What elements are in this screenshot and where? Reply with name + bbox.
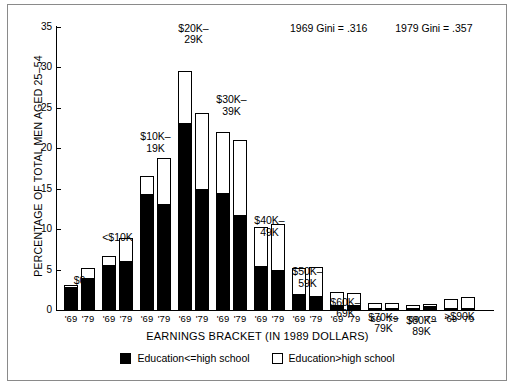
bar-1979: [195, 113, 209, 311]
bar-segment-education-lte-highschool: [103, 265, 115, 310]
bracket-label: $40K–49K: [230, 215, 310, 238]
bar-segment-education-lte-highschool: [424, 306, 436, 310]
bar-segment-education-lte-highschool: [255, 266, 267, 310]
y-axis-tick-label: 20: [22, 143, 52, 153]
x-axis-tick-label: '79: [154, 313, 174, 324]
legend-label-education-gt-highschool: Education>high school: [289, 352, 395, 364]
bar-segment-education-lte-highschool: [196, 189, 208, 310]
bracket-label: $50K–59K: [268, 266, 348, 289]
y-axis-tick-label: 15: [22, 184, 52, 194]
bar-1969: [254, 227, 268, 311]
x-axis-tick-label: '79: [458, 313, 478, 324]
bar-1979: [385, 303, 399, 311]
bar-1979: [157, 158, 171, 311]
x-axis-tick-label: '79: [420, 313, 440, 324]
bar-1969: [178, 71, 192, 311]
legend-label-education-lte-highschool: Education<=high school: [137, 352, 249, 364]
bar-segment-education-lte-highschool: [293, 294, 305, 310]
bar-segment-education-lte-highschool: [369, 308, 381, 310]
bar-1979: [423, 304, 437, 311]
bar-1969: [216, 132, 230, 312]
bar-1979: [119, 238, 133, 311]
bracket-label: $30K–39K: [192, 94, 272, 117]
bar-segment-education-lte-highschool: [158, 204, 170, 310]
bar-segment-education-lte-highschool: [141, 194, 153, 310]
x-axis-tick-label: '79: [116, 313, 136, 324]
x-axis-tick-label: '79: [382, 313, 402, 324]
bar-1969: [64, 285, 78, 311]
bar-segment-education-lte-highschool: [179, 123, 191, 310]
x-axis-tick-label: '79: [192, 313, 212, 324]
bar-segment-education-lte-highschool: [65, 287, 77, 310]
y-axis-tick-label: 5: [22, 265, 52, 275]
bar-1979: [461, 297, 475, 311]
bar-1969: [406, 305, 420, 311]
x-axis-tick-label: '79: [78, 313, 98, 324]
chart-figure: 1969 Gini = .316 1979 Gini = .357 PERCEN…: [0, 0, 515, 391]
bar-segment-education-lte-highschool: [407, 308, 419, 310]
legend-item-education-gt-highschool: Education>high school: [272, 352, 395, 364]
bar-1969: [444, 299, 458, 311]
plot-area: $0<$10K$10K–19K$20K–29K$30K–39K$40K–49K$…: [56, 27, 494, 311]
chart-legend: Education<=high school Education>high sc…: [0, 352, 515, 364]
x-axis-tick-label: '79: [268, 313, 288, 324]
bar-1969: [368, 303, 382, 311]
bar-segment-education-lte-highschool: [120, 261, 132, 310]
x-axis-title: EARNINGS BRACKET (IN 1989 DOLLARS): [0, 330, 515, 342]
legend-swatch-hollow: [272, 353, 283, 364]
legend-swatch-filled: [120, 353, 131, 364]
x-axis-tick-label: '79: [344, 313, 364, 324]
bracket-label: $20K–29K: [154, 23, 234, 46]
y-axis-tick-label: 30: [22, 62, 52, 72]
y-axis-tick-label: 35: [22, 22, 52, 32]
bar-1969: [102, 256, 116, 311]
y-axis-tick-label: 25: [22, 103, 52, 113]
y-axis-tick-label: 0: [22, 305, 52, 315]
bar-1969: [140, 176, 154, 311]
y-axis-tick-label: 10: [22, 224, 52, 234]
x-axis-tick-label: '79: [230, 313, 250, 324]
bar-segment-education-lte-highschool: [386, 308, 398, 310]
x-axis-tick-label: '79: [306, 313, 326, 324]
legend-item-education-lte-highschool: Education<=high school: [120, 352, 249, 364]
bar-segment-education-lte-highschool: [217, 193, 229, 310]
